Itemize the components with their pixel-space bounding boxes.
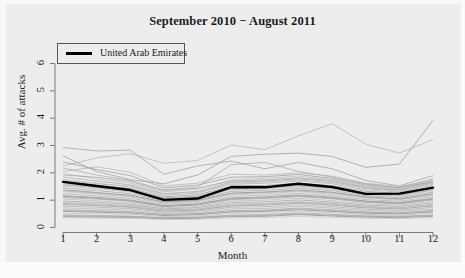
- y-tick-label: 4: [35, 108, 46, 126]
- x-tick-label: 1: [53, 233, 73, 244]
- x-tick-label: 5: [188, 233, 208, 244]
- y-tick-label: 1: [35, 190, 46, 208]
- x-axis-label: Month: [0, 249, 465, 261]
- legend-line-swatch: [66, 52, 92, 55]
- y-tick-label: 0: [35, 217, 46, 235]
- legend-label-uae: United Arab Emirates: [100, 47, 187, 58]
- y-tick-label: 2: [35, 162, 46, 180]
- x-tick-label: 6: [221, 233, 241, 244]
- background-series-group: [63, 120, 433, 219]
- legend[interactable]: United Arab Emirates: [57, 43, 185, 64]
- x-tick-label: 7: [255, 233, 275, 244]
- figure-canvas: September 2010 − August 2011 Avg. # of a…: [0, 0, 465, 278]
- x-tick-label: 8: [288, 233, 308, 244]
- background-series-line: [63, 124, 433, 166]
- x-tick-label: 12: [423, 233, 443, 244]
- x-tick-label: 2: [87, 233, 107, 244]
- x-tick-label: 11: [389, 233, 409, 244]
- x-tick-label: 10: [356, 233, 376, 244]
- y-tick-label: 5: [35, 80, 46, 98]
- x-tick-label: 3: [120, 233, 140, 244]
- x-tick-label: 4: [154, 233, 174, 244]
- x-tick-label: 9: [322, 233, 342, 244]
- y-tick-label: 6: [35, 53, 46, 71]
- y-axis-label: Avg. # of attacks: [15, 47, 27, 177]
- y-tick-label: 3: [35, 135, 46, 153]
